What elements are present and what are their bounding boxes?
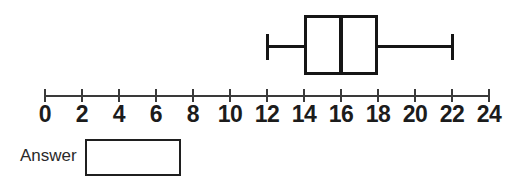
- axis-tick-label: 2: [64, 103, 100, 126]
- answer-input[interactable]: [85, 139, 181, 176]
- axis-tick-label: 14: [286, 103, 322, 126]
- axis-tick-label: 8: [175, 103, 211, 126]
- axis-tick-label: 4: [101, 103, 137, 126]
- number-line: 024681012141618202224: [0, 0, 526, 186]
- axis-tick-label: 24: [471, 103, 507, 126]
- axis-tick-label: 12: [249, 103, 285, 126]
- worksheet-canvas: 024681012141618202224 Answer: [0, 0, 526, 186]
- axis-tick-label: 6: [138, 103, 174, 126]
- axis-tick-label: 22: [434, 103, 470, 126]
- axis-tick-label: 0: [27, 103, 63, 126]
- axis-tick-label: 18: [360, 103, 396, 126]
- axis-tick-label: 20: [397, 103, 433, 126]
- axis-tick-label: 10: [212, 103, 248, 126]
- axis-tick-label: 16: [323, 103, 359, 126]
- answer-label: Answer: [20, 146, 77, 166]
